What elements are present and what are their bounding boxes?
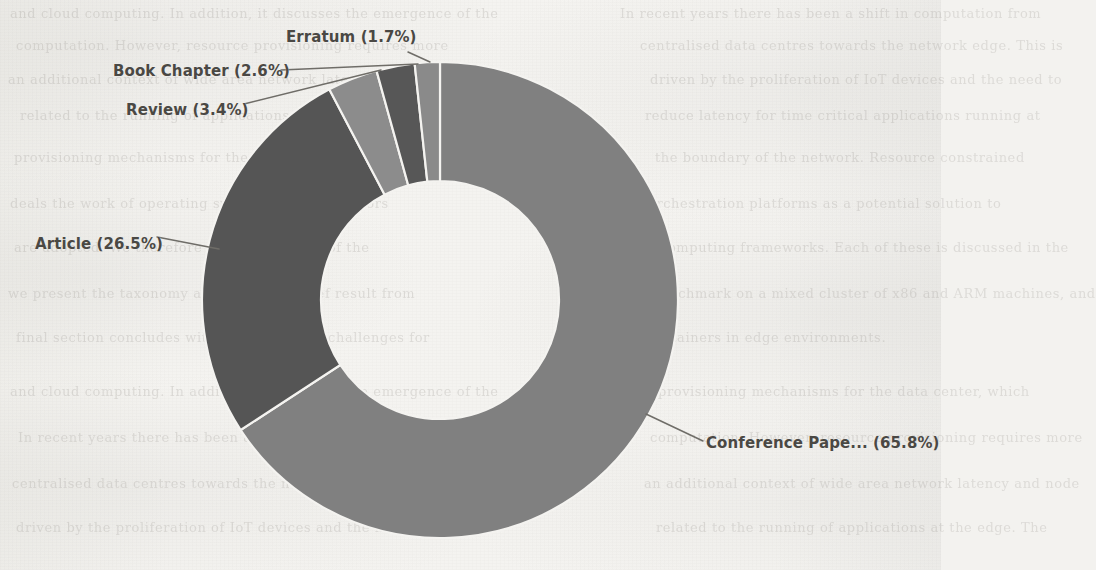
leader-line-conference-paper bbox=[646, 414, 703, 441]
slice-label-review: Review (3.4%) bbox=[126, 101, 249, 119]
slice-label-erratum: Erratum (1.7%) bbox=[286, 28, 417, 46]
slice-label-article: Article (26.5%) bbox=[35, 235, 163, 253]
pie-slices-group bbox=[202, 62, 678, 538]
slice-label-conference-paper: Conference Pape... (65.8%) bbox=[706, 434, 940, 452]
leader-line-erratum bbox=[408, 52, 430, 62]
slice-label-book-chapter: Book Chapter (2.6%) bbox=[113, 62, 290, 80]
